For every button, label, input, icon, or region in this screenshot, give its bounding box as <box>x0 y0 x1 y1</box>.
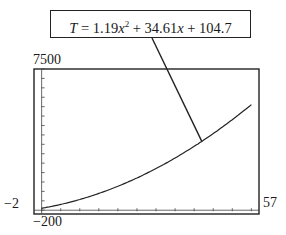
leader-line <box>152 38 202 141</box>
curve <box>42 105 252 209</box>
plot-frame <box>34 69 259 214</box>
graph-window <box>0 0 286 235</box>
